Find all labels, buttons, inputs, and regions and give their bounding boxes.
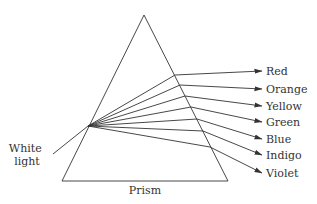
prism-diagram: RedOrangeYellowGreenBlueIndigoViolet Whi… [0, 0, 317, 204]
color-labels: RedOrangeYellowGreenBlueIndigoViolet [265, 65, 307, 180]
dispersed-rays-outside [175, 71, 262, 173]
arrow-yellow [185, 96, 262, 106]
white-light-label-line1: White [9, 142, 42, 155]
inner-ray-indigo [88, 126, 203, 131]
arrow-red [175, 71, 262, 75]
prism-label: Prism [129, 184, 162, 197]
arrow-indigo [203, 131, 262, 155]
label-violet: Violet [265, 167, 299, 180]
label-green: Green [266, 116, 300, 129]
label-orange: Orange [266, 83, 307, 96]
label-indigo: Indigo [266, 149, 302, 162]
label-blue: Blue [266, 133, 291, 146]
label-red: Red [266, 65, 288, 78]
label-yellow: Yellow [265, 100, 302, 113]
inner-ray-violet [88, 126, 210, 147]
white-light-label-line2: light [14, 155, 40, 168]
arrow-orange [180, 85, 262, 89]
arrow-green [191, 107, 262, 122]
inner-ray-blue [88, 119, 197, 126]
white-light-label: White light [9, 142, 45, 168]
arrow-blue [197, 119, 262, 139]
inner-ray-orange [88, 85, 180, 126]
